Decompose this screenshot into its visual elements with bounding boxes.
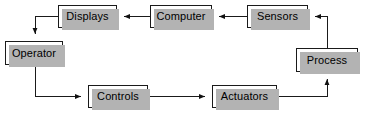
node-actuators[interactable]: Actuators (212, 85, 277, 108)
node-computer[interactable]: Computer (150, 5, 212, 28)
edge-process-to-sensors (315, 17, 327, 49)
node-label-process: Process (307, 55, 347, 66)
block-diagram: Displays Computer Sensors Operator Proce… (0, 0, 367, 119)
node-controls[interactable]: Controls (88, 85, 148, 108)
node-label-controls: Controls (97, 91, 139, 102)
node-label-displays: Displays (66, 11, 108, 22)
edge-actuators-to-process (277, 79, 327, 97)
edge-operator-to-controls (35, 65, 81, 97)
node-displays[interactable]: Displays (58, 5, 117, 28)
node-process[interactable]: Process (296, 48, 358, 72)
edge-displays-to-operator (35, 17, 58, 35)
node-label-sensors: Sensors (257, 11, 298, 22)
node-operator[interactable]: Operator (5, 41, 63, 65)
node-label-operator: Operator (12, 48, 56, 59)
node-sensors[interactable]: Sensors (247, 5, 308, 28)
node-label-computer: Computer (156, 11, 205, 22)
node-label-actuators: Actuators (221, 91, 268, 102)
